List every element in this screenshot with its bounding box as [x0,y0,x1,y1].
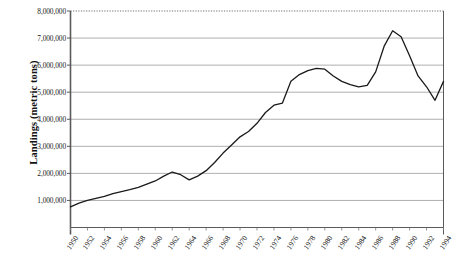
x-axis-tick-labels: 1950195219541956195819601962196419661968… [0,0,457,269]
chart-container: Landings (metric tons) 8,000,000 7,000,0… [0,0,457,269]
